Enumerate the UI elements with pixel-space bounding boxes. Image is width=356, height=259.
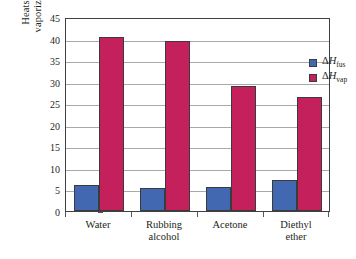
- y-tick-label-30: 30: [38, 77, 60, 88]
- bar-rubbing-alcohol-fusion[interactable]: [140, 188, 165, 211]
- bar-diethyl-ether-fusion[interactable]: [272, 180, 297, 211]
- bar-acetone-vaporization[interactable]: [231, 86, 256, 211]
- legend-sub-vaporization: vap: [336, 75, 347, 84]
- x-tick-mark-0: [65, 212, 66, 217]
- legend-swatch-fusion-icon: [309, 59, 317, 67]
- x-axis-tick-labels: Water Rubbing alcohol Acetone Diethyl et…: [65, 219, 330, 253]
- y-axis-tick-labels: 0 5 10 15 20 25 30 35 40 45: [38, 12, 60, 212]
- x-tick-label-diethyl-ether-line-2: ether: [263, 231, 329, 243]
- legend-delta-vaporization: Δ: [322, 70, 329, 81]
- x-tick-label-water-line-1: Water: [65, 219, 131, 231]
- legend: ΔHfus ΔHvap: [309, 57, 347, 83]
- legend-label-fusion: ΔHfus: [322, 55, 346, 70]
- bars-layer: [66, 19, 329, 211]
- bar-group-rubbing-alcohol: [132, 19, 198, 211]
- y-tick-label-0: 0: [38, 207, 60, 218]
- y-tick-label-40: 40: [38, 34, 60, 45]
- x-tick-mark-4: [328, 212, 329, 217]
- y-tick-label-35: 35: [38, 56, 60, 67]
- legend-sub-fusion: fus: [336, 60, 345, 69]
- x-tick-label-water: Water: [65, 219, 131, 231]
- x-tick-mark-1: [131, 212, 132, 217]
- y-tick-label-15: 15: [38, 142, 60, 153]
- bar-diethyl-ether-vaporization[interactable]: [297, 97, 322, 211]
- x-tick-label-acetone: Acetone: [197, 219, 263, 231]
- bar-group-water: [66, 19, 132, 211]
- bar-acetone-fusion[interactable]: [206, 187, 231, 211]
- y-axis-title-line-1: Heats of fusion or: [20, 0, 33, 25]
- bar-water-vaporization[interactable]: [99, 37, 124, 211]
- bar-chart-figure: Heats of fusion or vaporization (kJ/mol)…: [0, 0, 356, 259]
- legend-label-vaporization: ΔHvap: [322, 70, 347, 85]
- x-axis-tick-marks: [65, 212, 330, 217]
- plot-area: ΔHfus ΔHvap: [65, 18, 330, 212]
- legend-delta-fusion: Δ: [322, 55, 329, 66]
- y-tick-label-45: 45: [38, 13, 60, 24]
- y-tick-label-25: 25: [38, 99, 60, 110]
- bar-group-diethyl-ether: [264, 19, 330, 211]
- x-tick-label-diethyl-ether: Diethyl ether: [263, 219, 329, 243]
- y-tick-label-20: 20: [38, 120, 60, 131]
- x-tick-label-rubbing-alcohol-line-2: alcohol: [131, 231, 197, 243]
- bar-water-fusion[interactable]: [74, 185, 99, 211]
- y-tick-label-10: 10: [38, 163, 60, 174]
- y-tick-label-5: 5: [38, 185, 60, 196]
- x-tick-mark-3: [263, 212, 264, 217]
- x-tick-label-rubbing-alcohol-line-1: Rubbing: [131, 219, 197, 231]
- x-tick-label-diethyl-ether-line-1: Diethyl: [263, 219, 329, 231]
- x-tick-mark-2: [197, 212, 198, 217]
- x-tick-label-acetone-line-1: Acetone: [197, 219, 263, 231]
- legend-item-vaporization[interactable]: ΔHvap: [309, 72, 347, 83]
- bar-rubbing-alcohol-vaporization[interactable]: [165, 41, 190, 211]
- bar-group-acetone: [198, 19, 264, 211]
- legend-item-fusion[interactable]: ΔHfus: [309, 57, 347, 68]
- x-tick-label-rubbing-alcohol: Rubbing alcohol: [131, 219, 197, 243]
- legend-swatch-vaporization-icon: [309, 74, 317, 82]
